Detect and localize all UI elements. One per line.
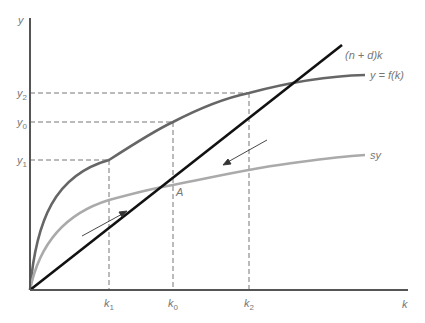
k2-tick: k2	[244, 297, 255, 312]
y2-tick: y2	[16, 87, 28, 102]
arrow-left-line	[226, 140, 267, 163]
saving-label: sy	[370, 149, 383, 161]
x-axis-label: k	[402, 298, 408, 310]
y-axis-label: y	[17, 14, 25, 26]
arrow-left-head	[223, 159, 231, 165]
saving-curve	[30, 155, 365, 290]
arrows	[82, 140, 267, 236]
production-label: y = f(k)	[369, 69, 404, 81]
solow-diagram: y k y2 y0 y1 k1 k0 k2 (n + d)k y = f(k) …	[0, 0, 425, 323]
depreciation-line	[30, 45, 342, 290]
depreciation-label: (n + d)k	[345, 49, 383, 61]
y1-tick: y1	[16, 154, 28, 169]
k1-tick: k1	[104, 297, 115, 312]
steady-state-label: A	[175, 186, 183, 198]
k0-tick: k0	[168, 297, 179, 312]
production-curve	[30, 75, 365, 290]
y0-tick: y0	[16, 116, 28, 131]
